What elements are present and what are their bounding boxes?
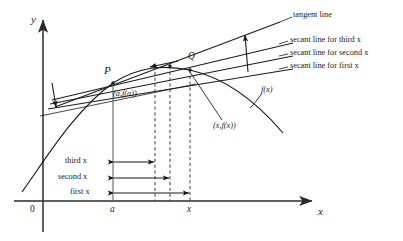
measurement-label-second: second x [58,173,87,181]
tangent-line [55,22,280,107]
vertical-lines-group [113,66,190,201]
secant-line-third [52,43,293,100]
curve-label-leaders-group [190,72,262,120]
origin-label: 0 [30,205,35,215]
point-q-marker [188,68,191,71]
secant-line-third-label: secant line for third x [290,36,361,44]
function-curve-label: f(x) [261,86,273,94]
tangent-line-label: tangent line [293,11,332,19]
x-axis-label: x [318,206,323,217]
x-tick-label-x: x [187,205,191,215]
leader-secant-first [279,67,288,69]
point-p-coordinates-label: (a,f(a)) [113,90,137,98]
leader-secant-third [279,41,288,44]
leader-secant-second [279,54,288,56]
secant-line-first-label: secant line for first x [290,62,359,70]
point-third-marker [153,64,156,67]
calculus-diagram-figure: y x 0 a x P (a,f(a)) Q (x,f(x)) f(x) tan… [0,0,403,241]
measurement-label-first: first x [70,188,90,196]
axes-group [14,20,312,232]
secant-line-second-label: secant line for second x [290,49,368,57]
measurement-arrows-group [114,162,189,193]
point-q-label: Q [188,52,195,62]
point-second-marker [168,64,171,67]
y-axis-label: y [31,14,36,25]
point-p-marker [111,81,114,84]
tangent-leader-line [280,17,292,22]
measurement-label-third: third x [65,157,87,165]
point-q-coordinates-label: (x,f(x)) [213,122,236,130]
x-tick-label-a: a [110,205,115,215]
point-p-label: P [104,65,111,76]
